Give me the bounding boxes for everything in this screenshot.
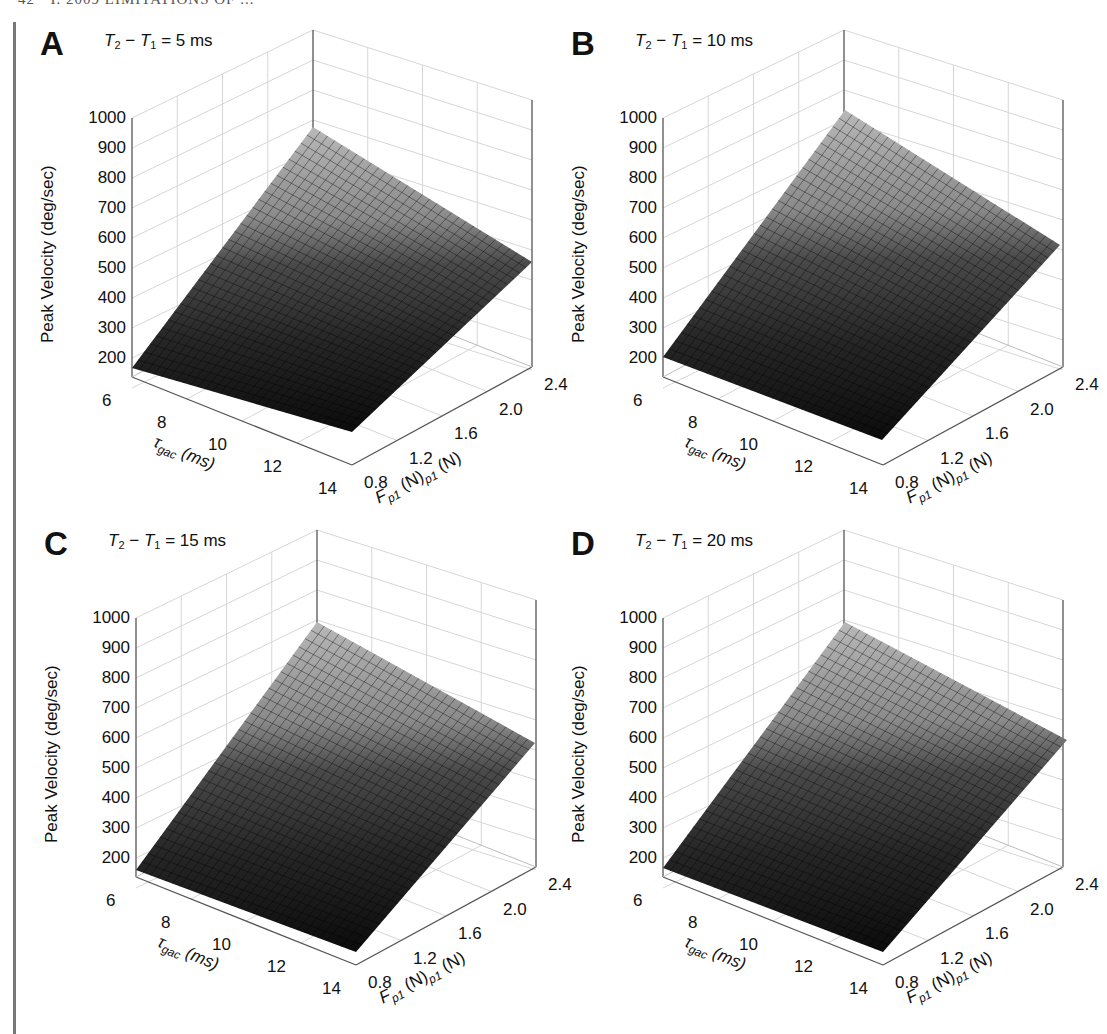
z-tick: 300 bbox=[613, 318, 657, 338]
z-tick: 900 bbox=[613, 638, 657, 658]
x-tick: 8 bbox=[688, 413, 697, 433]
y-tick: 1.6 bbox=[454, 424, 478, 444]
z-tick: 700 bbox=[613, 198, 657, 218]
figure-panel-c: C T2 − T1 = 15 ms Peak Velocity (deg/sec… bbox=[4, 500, 544, 1000]
z-tick: 400 bbox=[613, 288, 657, 308]
z-tick: 500 bbox=[613, 258, 657, 278]
z-tick: 1000 bbox=[82, 108, 126, 128]
z-tick: 1000 bbox=[613, 108, 657, 128]
y-tick: 2.0 bbox=[499, 400, 523, 420]
y-tick: 1.6 bbox=[985, 924, 1009, 944]
z-tick: 500 bbox=[613, 758, 657, 778]
x-tick: 8 bbox=[688, 913, 697, 933]
z-tick: 400 bbox=[86, 788, 130, 808]
z-tick: 800 bbox=[82, 168, 126, 188]
panel-condition: T2 − T1 = 5 ms bbox=[104, 31, 213, 51]
x-tick: 10 bbox=[212, 935, 231, 955]
z-tick: 500 bbox=[86, 758, 130, 778]
panel-condition: T2 − T1 = 15 ms bbox=[108, 531, 226, 551]
z-tick: 800 bbox=[86, 668, 130, 688]
z-axis-label: Peak Velocity (deg/sec) bbox=[569, 165, 589, 343]
x-tick: 12 bbox=[267, 957, 286, 977]
surface bbox=[663, 110, 1060, 440]
z-tick: 200 bbox=[82, 348, 126, 368]
x-tick: 14 bbox=[318, 479, 337, 499]
z-tick: 500 bbox=[82, 258, 126, 278]
x-tick: 12 bbox=[794, 957, 813, 977]
y-tick: 1.6 bbox=[458, 924, 482, 944]
y-tick: 1.6 bbox=[985, 424, 1009, 444]
z-tick: 1000 bbox=[613, 608, 657, 628]
y-tick: 2.4 bbox=[1075, 875, 1099, 895]
z-tick: 300 bbox=[613, 818, 657, 838]
z-tick: 600 bbox=[613, 728, 657, 748]
z-tick: 200 bbox=[86, 848, 130, 868]
x-tick: 12 bbox=[263, 457, 282, 477]
surface bbox=[136, 622, 535, 952]
z-tick: 900 bbox=[86, 638, 130, 658]
z-tick: 300 bbox=[86, 818, 130, 838]
figure-panel-b: B T2 − T1 = 10 ms Peak Velocity (deg/sec… bbox=[531, 0, 1071, 500]
z-tick: 700 bbox=[86, 698, 130, 718]
x-tick: 6 bbox=[106, 891, 115, 911]
z-axis-label: Peak Velocity (deg/sec) bbox=[38, 165, 58, 343]
z-tick: 800 bbox=[613, 168, 657, 188]
z-tick: 900 bbox=[82, 138, 126, 158]
x-tick: 8 bbox=[157, 413, 166, 433]
z-tick: 1000 bbox=[86, 608, 130, 628]
x-tick: 6 bbox=[633, 891, 642, 911]
z-tick: 600 bbox=[82, 228, 126, 248]
z-tick: 600 bbox=[613, 228, 657, 248]
x-tick: 6 bbox=[102, 391, 111, 411]
z-tick: 200 bbox=[613, 848, 657, 868]
x-tick: 10 bbox=[739, 435, 758, 455]
figure-panel-a: A T2 − T1 = 5 ms Peak Velocity (deg/sec)… bbox=[0, 0, 540, 500]
y-tick: 2.0 bbox=[1030, 400, 1054, 420]
z-tick: 300 bbox=[82, 318, 126, 338]
panel-condition: T2 − T1 = 20 ms bbox=[635, 531, 753, 551]
panel-condition: T2 − T1 = 10 ms bbox=[635, 31, 753, 51]
x-tick: 10 bbox=[739, 935, 758, 955]
z-tick: 200 bbox=[613, 348, 657, 368]
y-tick: 2.0 bbox=[503, 900, 527, 920]
z-tick: 400 bbox=[82, 288, 126, 308]
z-axis-label: Peak Velocity (deg/sec) bbox=[569, 665, 589, 843]
x-tick: 6 bbox=[633, 391, 642, 411]
x-tick: 10 bbox=[208, 435, 227, 455]
figure-panel-d: D T2 − T1 = 20 ms Peak Velocity (deg/sec… bbox=[531, 500, 1071, 1000]
z-axis-label: Peak Velocity (deg/sec) bbox=[42, 665, 62, 843]
panel-letter: D bbox=[571, 525, 595, 563]
z-tick: 700 bbox=[613, 698, 657, 718]
z-tick: 600 bbox=[86, 728, 130, 748]
z-tick: 400 bbox=[613, 788, 657, 808]
x-tick: 8 bbox=[161, 913, 170, 933]
x-tick: 12 bbox=[794, 457, 813, 477]
y-tick: 2.0 bbox=[1030, 900, 1054, 920]
x-tick: 14 bbox=[849, 979, 868, 999]
y-tick: 2.4 bbox=[1075, 375, 1099, 395]
panel-letter: B bbox=[571, 25, 595, 63]
panel-letter: A bbox=[40, 25, 64, 63]
z-tick: 900 bbox=[613, 138, 657, 158]
z-tick: 800 bbox=[613, 668, 657, 688]
x-tick: 14 bbox=[849, 479, 868, 499]
panel-letter: C bbox=[44, 525, 68, 563]
x-tick: 14 bbox=[322, 979, 341, 999]
z-tick: 700 bbox=[82, 198, 126, 218]
